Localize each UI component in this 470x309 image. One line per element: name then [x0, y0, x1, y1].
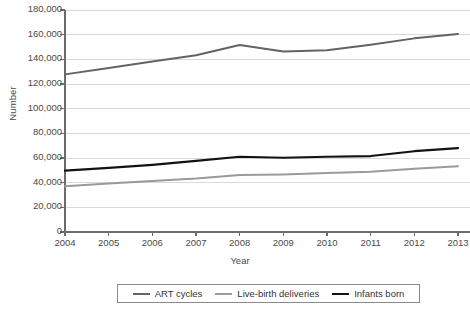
x-axis-title: Year: [200, 255, 280, 266]
legend-item[interactable]: ART cycles: [133, 288, 203, 299]
y-axis-title: Number: [7, 64, 18, 144]
gridlines: [65, 10, 470, 232]
x-tick-label: 2007: [176, 237, 216, 248]
series-lines: [65, 34, 458, 186]
series-line: [65, 166, 458, 186]
x-tick-label: 2008: [220, 237, 260, 248]
y-tick-label: 140,000: [8, 53, 62, 63]
x-tick-label: 2011: [351, 237, 391, 248]
x-tick-label: 2009: [263, 237, 303, 248]
line-chart: 180,000160,000140,000120,000100,00080,00…: [0, 0, 470, 309]
y-tick-label: 180,000: [8, 4, 62, 14]
y-tick-label: 0: [8, 226, 62, 236]
legend-line-swatch: [332, 293, 349, 295]
x-tick-label: 2012: [394, 237, 434, 248]
legend-item-label: ART cycles: [155, 288, 203, 299]
y-tick-label: 160,000: [8, 29, 62, 39]
legend-item[interactable]: Infants born: [332, 288, 404, 299]
x-tick-label: 2004: [45, 237, 85, 248]
chart-legend: ART cyclesLive-birth deliveriesInfants b…: [117, 284, 420, 303]
legend-item[interactable]: Live-birth deliveries: [215, 288, 319, 299]
y-tick-label: 20,000: [8, 201, 62, 211]
tick-marks: [60, 10, 458, 236]
series-line: [65, 148, 458, 171]
legend-line-swatch: [133, 293, 150, 295]
y-tick-label: 60,000: [8, 152, 62, 162]
x-tick-label: 2013: [438, 237, 470, 248]
legend-item-label: Infants born: [354, 288, 404, 299]
x-tick-label: 2006: [132, 237, 172, 248]
axis-lines: [65, 10, 470, 232]
series-line: [65, 34, 458, 74]
y-tick-label: 40,000: [8, 177, 62, 187]
x-tick-label: 2010: [307, 237, 347, 248]
legend-item-label: Live-birth deliveries: [237, 288, 319, 299]
x-tick-label: 2005: [89, 237, 129, 248]
legend-line-swatch: [215, 293, 232, 295]
